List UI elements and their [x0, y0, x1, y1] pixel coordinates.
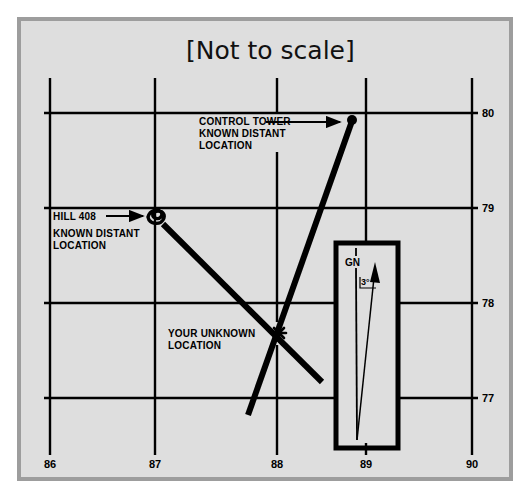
y-axis-label-77: 77: [482, 392, 494, 404]
page-title: [Not to scale]: [186, 37, 355, 65]
figure-container: [Not to scale] CONTROL TOWER KNOWN DISTA…: [0, 0, 531, 499]
x-axis-label-87: 87: [149, 458, 161, 470]
magnetic-north-arrowhead: [370, 262, 380, 283]
x-axis-label-88: 88: [271, 458, 283, 470]
control-tower-marker-dot: [347, 115, 357, 125]
control-tower-label-line1: CONTROL TOWER: [199, 116, 291, 127]
y-axis-label-78: 78: [482, 297, 494, 309]
magnetic-north-line: [357, 268, 375, 440]
hill-408-label-line1: HILL 408: [53, 211, 96, 222]
control-tower-label-line3: LOCATION: [199, 140, 252, 151]
bearing-lines: [163, 121, 352, 415]
unknown-location-asterisk: [272, 326, 286, 340]
x-axis-label-90: 90: [466, 458, 478, 470]
control-tower-label-line2: KNOWN DISTANT: [199, 128, 286, 139]
x-axis-label-89: 89: [360, 458, 372, 470]
hill-408-label-line2: KNOWN DISTANT: [53, 228, 140, 239]
declination-angle-label: 3°: [361, 277, 370, 287]
y-axis-label-79: 79: [482, 202, 494, 214]
x-axis-label-86: 86: [44, 458, 56, 470]
declination-diagram: [336, 243, 398, 448]
unknown-location-label-line1: YOUR UNKNOWN: [168, 328, 255, 339]
unknown-location-label-line2: LOCATION: [168, 340, 221, 351]
y-axis-label-80: 80: [482, 107, 494, 119]
hill-408-label-line3: LOCATION: [53, 240, 106, 251]
grid-north-label: GN: [345, 257, 360, 268]
grid-north-line: [356, 268, 357, 440]
x-tick-marks: [50, 443, 472, 455]
